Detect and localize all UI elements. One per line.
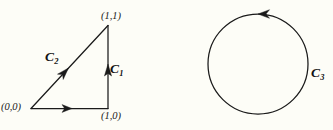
c3-circle xyxy=(208,14,308,114)
curve-label-c2-letter: C xyxy=(45,49,54,64)
c3-arrowhead-icon xyxy=(258,10,270,19)
point-label-bottom-right: (1,0) xyxy=(101,110,121,121)
c2-line xyxy=(31,26,108,109)
curve-c3 xyxy=(208,10,308,114)
curve-label-c1: C1 xyxy=(110,61,123,77)
point-label-top-right: (1,1) xyxy=(101,10,121,21)
curve-label-c2: C2 xyxy=(45,49,58,65)
curve-c2 xyxy=(31,26,108,109)
curve-label-c1-subscript: 1 xyxy=(119,68,123,78)
curve-label-c3-letter: C xyxy=(311,65,320,80)
curve-label-c2-subscript: 2 xyxy=(54,56,58,66)
curve-label-c1-letter: C xyxy=(110,61,119,76)
diagram-canvas xyxy=(0,0,333,130)
curve-label-c3: C3 xyxy=(311,65,324,81)
figure-container: (0,0) (1,1) (1,0) C1 C2 C3 xyxy=(0,0,333,130)
point-label-origin: (0,0) xyxy=(1,101,21,112)
curve-label-c3-subscript: 3 xyxy=(320,72,324,82)
triangle-bottom-edge xyxy=(31,105,108,113)
